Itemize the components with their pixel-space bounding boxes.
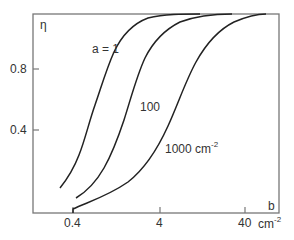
x-axis-unit: cm-2 — [258, 218, 281, 230]
y-axis-label: η — [40, 19, 47, 31]
x-tick-label-0.4: 0.4 — [64, 217, 81, 229]
x-tick-label-4: 4 — [156, 217, 163, 229]
y-tick-label-0.4: 0.4 — [10, 124, 27, 136]
x-unit-text: cm — [258, 217, 274, 231]
x-axis-label: b — [268, 200, 275, 212]
y-tick-label-0.8: 0.8 — [10, 63, 27, 75]
curve-label-1000-text: 1000 cm — [165, 142, 211, 156]
curve-label-1000: 1000 cm-2 — [165, 143, 218, 155]
x-unit-exponent: -2 — [274, 215, 281, 224]
curve-label-100: 100 — [140, 101, 160, 113]
x-tick-label-40: 40 — [238, 217, 251, 229]
curve-label-1000-exponent: -2 — [211, 140, 218, 149]
chart-plot — [0, 0, 294, 240]
curve-label-a-1: a = 1 — [92, 43, 119, 55]
